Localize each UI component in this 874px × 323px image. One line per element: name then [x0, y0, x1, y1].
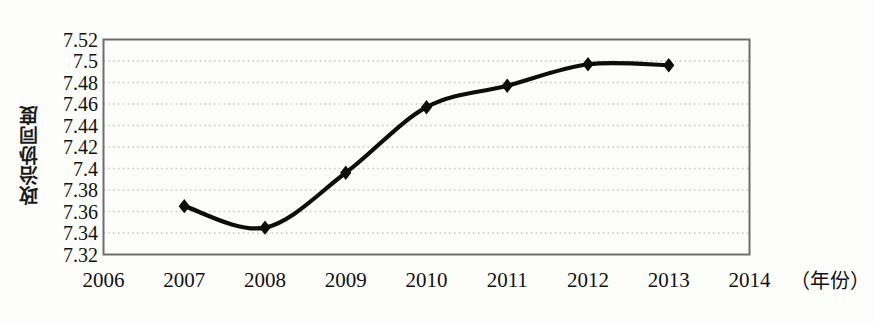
- data-point-markers: [179, 57, 675, 235]
- x-axis-tick-labels: 200620072008200920102011201220132014: [0, 268, 874, 302]
- data-point-marker: [663, 58, 674, 72]
- x-axis-tick-label: 2014: [705, 268, 795, 292]
- chart-figure: 政治协同度 7.327.347.367.387.47.427.447.467.4…: [0, 0, 874, 323]
- gridlines: [104, 61, 750, 233]
- x-axis-tick-label: 2013: [624, 268, 714, 292]
- x-axis-tick-label: 2009: [301, 268, 391, 292]
- x-axis-tick-label: 2011: [462, 268, 552, 292]
- x-axis-tick-label: 2006: [59, 268, 149, 292]
- x-axis-unit-label: （年份）: [790, 269, 870, 293]
- x-axis-tick-label: 2010: [382, 268, 472, 292]
- data-point-marker: [582, 57, 593, 71]
- data-point-marker: [421, 100, 432, 114]
- data-line-series-1: [184, 63, 669, 229]
- x-axis-tick-label: 2007: [139, 268, 229, 292]
- x-axis-tick-label: 2008: [220, 268, 310, 292]
- data-point-marker: [259, 220, 270, 234]
- data-point-marker: [502, 79, 513, 93]
- x-axis-tick-label: 2012: [543, 268, 633, 292]
